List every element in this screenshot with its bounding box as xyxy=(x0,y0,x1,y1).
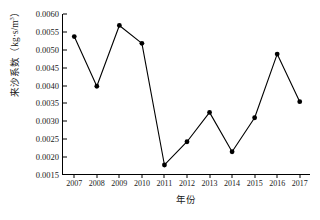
x-axis-tick-mark xyxy=(74,174,75,178)
data-point xyxy=(94,84,99,89)
chart-figure: 来沙系数（kg·s/m3） 0.00150.00200.00250.00300.… xyxy=(0,0,320,220)
y-axis-tick-mark xyxy=(63,103,67,104)
x-axis-tick-mark xyxy=(96,174,97,178)
y-axis-tick-label: 0.0015 xyxy=(36,171,59,180)
x-axis-tick-label: 2009 xyxy=(111,180,127,188)
x-axis-title: 年份 xyxy=(62,196,310,206)
y-axis-tick-mark xyxy=(63,139,67,140)
x-axis-tick-label: 2012 xyxy=(179,180,195,188)
y-axis-unit-exponent: 3 xyxy=(8,17,15,20)
y-axis-title-text: 来沙系数 xyxy=(10,57,20,97)
y-axis-tick-label: 0.0040 xyxy=(36,81,59,90)
line-series xyxy=(63,14,311,175)
plot-area: 0.00150.00200.00250.00300.00350.00400.00… xyxy=(62,14,310,175)
y-axis-unit-open: （kg·s/m xyxy=(10,20,20,56)
data-point xyxy=(117,23,122,28)
x-axis-tick-mark xyxy=(254,174,255,178)
x-axis-tick-mark xyxy=(164,174,165,178)
x-axis-tick-mark xyxy=(209,174,210,178)
x-axis-tick-label: 2016 xyxy=(269,180,285,188)
x-axis-tick-mark xyxy=(141,174,142,178)
y-axis-tick-mark xyxy=(63,121,67,122)
y-axis-tick-label: 0.0025 xyxy=(36,135,59,144)
data-point xyxy=(207,110,212,115)
data-point xyxy=(252,115,257,120)
data-point xyxy=(275,52,280,57)
x-axis-tick-label: 2007 xyxy=(66,180,82,188)
y-axis-tick-label: 0.0020 xyxy=(36,153,59,162)
y-axis-tick-mark xyxy=(63,67,67,68)
x-axis-tick-label: 2017 xyxy=(292,180,308,188)
y-axis-tick-mark xyxy=(63,157,67,158)
x-axis-tick-label: 2013 xyxy=(202,180,218,188)
y-axis-tick-label: 0.0045 xyxy=(36,63,59,72)
data-point xyxy=(230,149,235,154)
y-axis-tick-mark xyxy=(63,85,67,86)
y-axis-title: 来沙系数（kg·s/m3） xyxy=(4,0,20,122)
data-point xyxy=(297,99,302,104)
y-axis-tick-label: 0.0055 xyxy=(36,28,59,37)
x-axis-tick-label: 2010 xyxy=(134,180,150,188)
x-axis-tick-label: 2011 xyxy=(157,180,173,188)
x-axis-tick-label: 2014 xyxy=(224,180,240,188)
x-axis-tick-mark xyxy=(277,174,278,178)
x-axis-tick-mark xyxy=(232,174,233,178)
y-axis-tick-mark xyxy=(63,31,67,32)
y-axis-tick-mark xyxy=(63,14,67,15)
x-axis-tick-label: 2008 xyxy=(89,180,105,188)
data-point xyxy=(162,163,167,168)
x-axis-tick-label: 2015 xyxy=(247,180,263,188)
y-axis-tick-label: 0.0050 xyxy=(36,46,59,55)
data-point xyxy=(140,41,145,46)
data-point xyxy=(185,139,190,144)
series-markers xyxy=(72,23,302,167)
y-axis-tick-label: 0.0060 xyxy=(36,10,59,19)
y-axis-tick-mark xyxy=(63,49,67,50)
x-axis-tick-mark xyxy=(299,174,300,178)
x-axis-tick-mark xyxy=(187,174,188,178)
x-axis-tick-mark xyxy=(119,174,120,178)
y-axis-tick-label: 0.0035 xyxy=(36,99,59,108)
y-axis-unit-close: ） xyxy=(10,7,20,17)
y-axis-tick-label: 0.0030 xyxy=(36,117,59,126)
data-point xyxy=(72,34,77,39)
